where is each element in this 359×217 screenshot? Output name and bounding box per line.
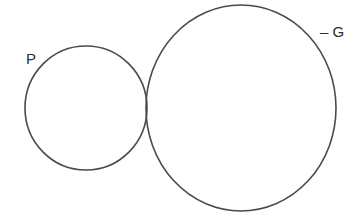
circle-g xyxy=(146,5,336,211)
label-g: – G xyxy=(320,23,344,40)
circle-p xyxy=(25,46,147,170)
tangent-circles-diagram: P – G xyxy=(0,0,359,217)
label-p: P xyxy=(26,50,36,67)
